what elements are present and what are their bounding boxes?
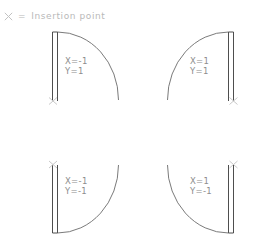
- figure-x-label: X=1: [190, 56, 209, 66]
- figure-x-label: X=1: [190, 176, 209, 186]
- diagram-canvas: = Insertion point X=-1 Y=1: [0, 0, 267, 241]
- figure-y-label: Y=-1: [189, 186, 212, 196]
- insertion-point-marker: [49, 98, 57, 105]
- figure-x-label: X=-1: [65, 176, 88, 186]
- figure-bottom-left: X=-1 Y=-1: [49, 161, 119, 233]
- figure-bottom-right: X=1 Y=-1: [168, 161, 238, 233]
- figure-y-label: Y=-1: [64, 186, 87, 196]
- figure-top-right: X=1 Y=1: [168, 32, 238, 105]
- figure-y-label: Y=1: [189, 66, 209, 76]
- figure-top-left: X=-1 Y=1: [49, 32, 119, 105]
- figure-x-label: X=-1: [65, 56, 88, 66]
- insertion-point-marker: [49, 161, 57, 168]
- figure-y-label: Y=1: [64, 66, 84, 76]
- quadrant-figures: X=-1 Y=1 X=1 Y=1 X=-1: [0, 0, 267, 241]
